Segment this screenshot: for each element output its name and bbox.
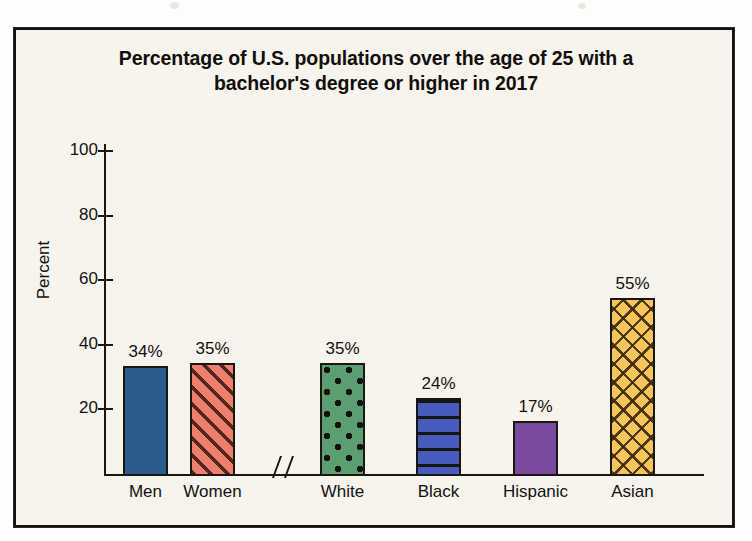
category-label-asian: Asian (563, 482, 703, 502)
figure-canvas: Percentage of U.S. populations over the … (0, 0, 752, 541)
y-axis-line (104, 144, 106, 476)
bar-black[interactable]: 24% (416, 398, 461, 476)
chart-frame: Percentage of U.S. populations over the … (13, 27, 735, 528)
scan-artifact (170, 2, 179, 9)
bar-value-label: 55% (593, 274, 673, 294)
y-axis-tick (98, 215, 113, 217)
y-axis-tick-label: 100 (46, 140, 98, 160)
category-label-women: Women (143, 482, 283, 502)
bar-rect (513, 421, 558, 476)
y-axis-tick (98, 150, 113, 152)
bar-rect (190, 363, 235, 476)
bar-value-label: 35% (173, 339, 253, 359)
y-axis-tick (98, 279, 113, 281)
bar-value-label: 35% (303, 339, 383, 359)
scan-artifact (578, 3, 586, 9)
bar-rect (416, 398, 461, 476)
axis-break-icon (266, 456, 306, 478)
bar-rect (123, 366, 168, 476)
bar-women[interactable]: 35% (190, 363, 235, 476)
y-axis-tick-label: 20 (46, 398, 98, 418)
bar-hispanic[interactable]: 17% (513, 421, 558, 476)
bar-asian[interactable]: 55% (610, 298, 655, 476)
y-axis-title: Percent (34, 220, 54, 320)
y-axis-tick (98, 344, 113, 346)
bar-white[interactable]: 35% (320, 363, 365, 476)
y-axis-tick (98, 408, 113, 410)
bar-men[interactable]: 34% (123, 366, 168, 476)
bar-value-label: 17% (496, 397, 576, 417)
plot-area: 20406080100 Percent 34%35%35%24%17%55% M… (16, 30, 732, 525)
y-axis-tick-label: 40 (46, 334, 98, 354)
bar-rect (320, 363, 365, 476)
bar-rect (610, 298, 655, 476)
bar-value-label: 24% (399, 374, 479, 394)
